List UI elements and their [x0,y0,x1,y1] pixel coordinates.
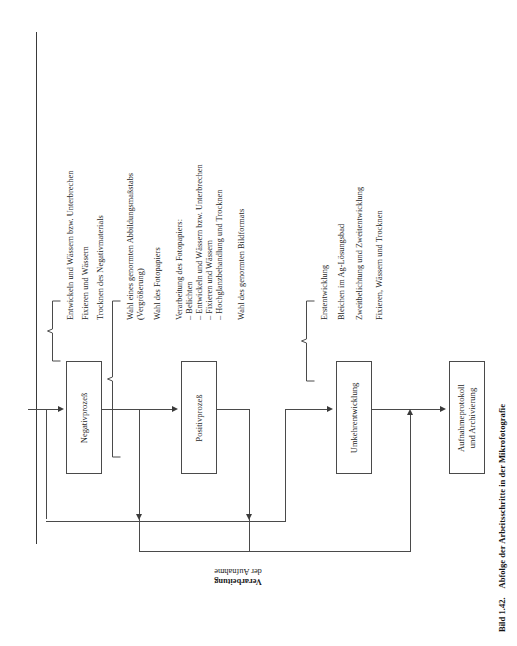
arrow-into-positivprozess [172,406,178,412]
page-margin-rule [36,32,37,544]
flow-negativ-to-positiv [102,409,174,410]
flow-entry-vertical [46,409,47,519]
brace-umkehr [300,300,316,382]
figure-caption-number: Bild 1.42. [497,597,507,632]
process-box-negativprozess-label: Negativprozeß [79,392,90,443]
process-box-umkehrentwicklung[interactable]: Umkehrentwicklung [336,361,372,474]
annotation-positiv-5: – Belichten [185,281,194,320]
feedback-bus-upper-riser [285,409,286,522]
process-box-aufnahmeprotokoll-line2: und Archivierung [467,387,477,447]
annotation-positiv-4: Verarbeitung des Fotopapiers: [175,219,184,320]
feedback-tap-positiv [249,521,250,552]
arrow-feedback-up [407,409,413,415]
annotation-negativ-1: Entwickeln und Wässern bzw. Unterbrechen [66,171,75,320]
feedback-bus-lower-left-riser [139,521,140,552]
brace-positiv [106,300,122,458]
arrow-positiv-branch-down [246,514,252,520]
feedback-bus-lower [139,551,411,552]
flow-positiv-branch-down [249,409,250,521]
annotation-negativ-2: Fixieren und Wässern [81,246,90,320]
side-label-line2: der Aufnahme [190,566,286,576]
flow-positiv-out [217,409,250,410]
process-box-negativprozess[interactable]: Negativprozeß [66,361,102,474]
annotation-positiv-7: – Fixieren und Wässern [205,240,214,320]
process-box-aufnahmeprotokoll[interactable]: Aufnahmeprotokoll und Archivierung [449,361,485,474]
annotation-positiv-6: – Entwickeln und Wässern bzw. Unterbrech… [195,164,204,320]
figure-caption: Bild 1.42. Abfolge der Arbeitsschritte i… [497,404,507,632]
annotation-umkehr-1: Erstentwicklung [320,265,329,320]
process-box-positivprozess-label: Positivprozeß [194,394,205,441]
flow-spine-entry [28,409,60,410]
feedback-bus-upper [46,521,286,522]
annotation-umkehr-2: Bleichen im Ag-Lösungsbad [337,224,346,320]
annotation-positiv-3: Wahl des Fotopapiers [153,247,162,320]
arrow-into-negativprozess [58,406,64,412]
process-box-aufnahmeprotokoll-line1: Aufnahmeprotokoll [456,384,466,452]
arrow-into-aufnahmeprotokoll [440,406,446,412]
process-box-umkehrentwicklung-label: Umkehrentwicklung [349,382,360,453]
annotation-negativ-3: Trocknen des Negativmaterials [96,215,105,320]
annotation-umkehr-4: Fixieren, Wässern und Trocknen [375,210,384,320]
process-box-positivprozess[interactable]: Positivprozeß [181,361,217,474]
feedback-bus-lower-riser [410,412,411,551]
figure-caption-text: Abfolge der Arbeitsschritte in der Mikro… [497,404,507,589]
side-label-verarbeitung: Verarbeitung der Aufnahme [190,566,286,586]
flow-bus-to-umkehr [285,409,329,410]
annotation-positiv-9: Wahl des genormten Bildformats [237,209,246,320]
process-box-aufnahmeprotokoll-label: Aufnahmeprotokoll und Archivierung [456,384,477,452]
arrow-into-umkehrentwicklung [327,406,333,412]
arrow-negativ-branch-down [136,514,142,520]
annotation-positiv-2: (Vergrößerung) [136,268,145,320]
side-label-line1: Verarbeitung [190,576,286,586]
flow-negativ-branch-down [139,409,140,521]
annotation-positiv-1: Wahl eines genormten Abbildungsmaßstabs [126,173,135,320]
figure-page: Entwickeln und Wässern bzw. Unterbrechen… [0,0,517,646]
annotation-umkehr-3: Zweitbelichtung und Zweitentwicklung [355,187,364,320]
brace-negativ [46,300,62,362]
annotation-positiv-8: – Hochglanzbehandlung und Trocknen [215,189,224,320]
